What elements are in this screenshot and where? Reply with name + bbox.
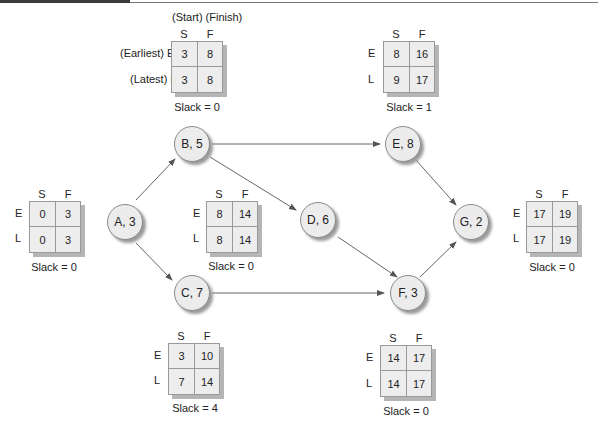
row-label-l: L (366, 377, 372, 389)
row-label-l: L (193, 232, 199, 244)
slack-e: Slack = 1 (369, 101, 449, 113)
row-label-e: E (15, 207, 22, 219)
network-edges (0, 0, 598, 422)
row-label-e: E (366, 351, 373, 363)
slack-a: Slack = 0 (14, 261, 94, 273)
node-c: C, 7 (174, 275, 210, 311)
row-label-e: E (154, 349, 161, 361)
row-label-l: L (154, 374, 160, 386)
node-f: F, 3 (390, 275, 426, 311)
row-label-e: E (193, 207, 200, 219)
node-g: G, 2 (453, 204, 489, 240)
edge-e-g (416, 160, 456, 205)
edge-a-b (136, 159, 175, 200)
slack-d: Slack = 0 (191, 260, 271, 272)
slack-b: Slack = 0 (157, 101, 237, 113)
earliest-row-label: (Earliest) E (120, 47, 174, 59)
row-label-l: L (368, 73, 374, 85)
row-label-l: L (513, 232, 519, 244)
row-label-e: E (513, 207, 520, 219)
slack-g: Slack = 0 (512, 261, 592, 273)
node-b: B, 5 (174, 126, 210, 162)
start-finish-label: (Start) (Finish) (172, 11, 242, 23)
edge-a-c (136, 243, 172, 280)
row-label-e: E (368, 47, 375, 59)
slack-f: Slack = 0 (366, 405, 446, 417)
edge-f-g (420, 242, 456, 277)
node-d: D, 6 (300, 202, 336, 238)
slack-c: Slack = 4 (155, 402, 235, 414)
node-e: E, 8 (385, 126, 421, 162)
row-label-l: L (15, 232, 21, 244)
node-a: A, 3 (107, 204, 143, 240)
latest-row-label: (Latest) L (130, 73, 176, 85)
edge-d-f (338, 237, 397, 277)
